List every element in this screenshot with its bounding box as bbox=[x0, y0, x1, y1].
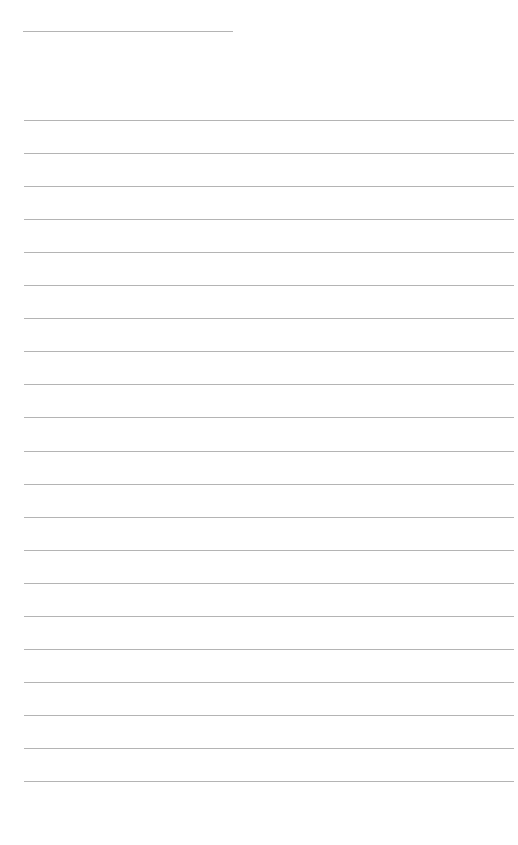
ruled-line bbox=[24, 351, 514, 352]
ruled-line bbox=[24, 550, 514, 551]
ruled-line bbox=[24, 781, 514, 782]
ruled-line bbox=[24, 153, 514, 154]
ruled-line bbox=[24, 120, 514, 121]
ruled-line bbox=[24, 649, 514, 650]
ruled-line bbox=[24, 318, 514, 319]
ruled-line bbox=[24, 583, 514, 584]
ruled-line bbox=[24, 682, 514, 683]
ruled-line bbox=[24, 748, 514, 749]
ruled-line bbox=[24, 186, 514, 187]
ruled-line bbox=[24, 451, 514, 452]
ruled-line bbox=[24, 484, 514, 485]
ruled-line bbox=[24, 384, 514, 385]
ruled-line bbox=[24, 219, 514, 220]
ruled-line bbox=[24, 285, 514, 286]
ruled-line bbox=[24, 517, 514, 518]
ruled-line bbox=[24, 715, 514, 716]
ruled-line bbox=[24, 417, 514, 418]
header-line bbox=[23, 31, 233, 32]
ruled-line bbox=[24, 616, 514, 617]
ruled-line bbox=[24, 252, 514, 253]
